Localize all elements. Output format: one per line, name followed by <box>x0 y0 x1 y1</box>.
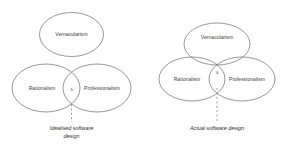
diagram-canvas: Vernacularism Rationalism Professionalis… <box>0 0 288 147</box>
actual-intersection-marker: Δ <box>216 70 219 75</box>
actual-vernacularism-ellipse <box>184 23 250 65</box>
actual-diagram-group: Vernacularism Rationalism Professionalis… <box>159 23 275 131</box>
actual-label-rationalism: Rationalism <box>174 76 201 82</box>
idealised-label-vernacularism: Vernacularism <box>55 31 87 37</box>
actual-label-professionalism: Professionalism <box>229 76 265 82</box>
idealised-caption-line2: design <box>64 133 80 139</box>
idealised-caption-line1: Idealised software <box>50 125 93 131</box>
idealised-diagram-group: Vernacularism Rationalism Professionalis… <box>12 13 131 140</box>
actual-caption-line1: Actual software design <box>189 125 244 131</box>
idealised-intersection-marker: Δ <box>70 87 73 92</box>
actual-label-vernacularism: Vernacularism <box>201 34 233 40</box>
venn-diagram-figure: Vernacularism Rationalism Professionalis… <box>0 0 288 147</box>
idealised-label-rationalism: Rationalism <box>29 85 56 91</box>
idealised-label-professionalism: Professionalism <box>84 85 120 91</box>
